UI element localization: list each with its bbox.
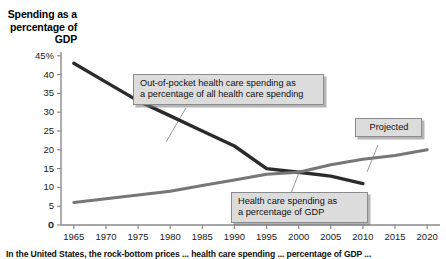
x-tick-label: 1975 [122,231,154,242]
y-tick-label: 30 [20,106,54,117]
x-tick-label: 2020 [411,231,443,242]
y-tick-label: 40 [20,69,54,80]
x-tick-label: 1985 [186,231,218,242]
y-tick-label: 35 [20,87,54,98]
x-tick-label: 1995 [251,231,283,242]
x-tick-label: 2010 [347,231,379,242]
y-tick-label: 20 [20,144,54,155]
x-tick-label: 2000 [283,231,315,242]
y-tick-label: 25 [20,125,54,136]
x-tick-label: 1965 [58,231,90,242]
x-tick-label: 1980 [154,231,186,242]
figure-caption: In the United States, the rock-bottom pr… [6,249,442,259]
y-tick-label: 15 [20,163,54,174]
annotation-projected: Projected [355,118,422,137]
callout-leader-lines [166,108,378,196]
x-tick-label: 2015 [379,231,411,242]
annotation-out-of-pocket: Out-of-pocket health care spending as a … [133,74,324,105]
annotation-gdp-share: Health care spending as a percentage of … [231,192,368,223]
y-tick-label: 5 [20,200,54,211]
x-tick-label: 2005 [315,231,347,242]
x-tick-label: 1970 [90,231,122,242]
origin-label: 0 [48,219,53,230]
x-tick-label: 1990 [218,231,250,242]
y-tick-label: 45% [20,50,54,61]
y-tick-label: 10 [20,181,54,192]
